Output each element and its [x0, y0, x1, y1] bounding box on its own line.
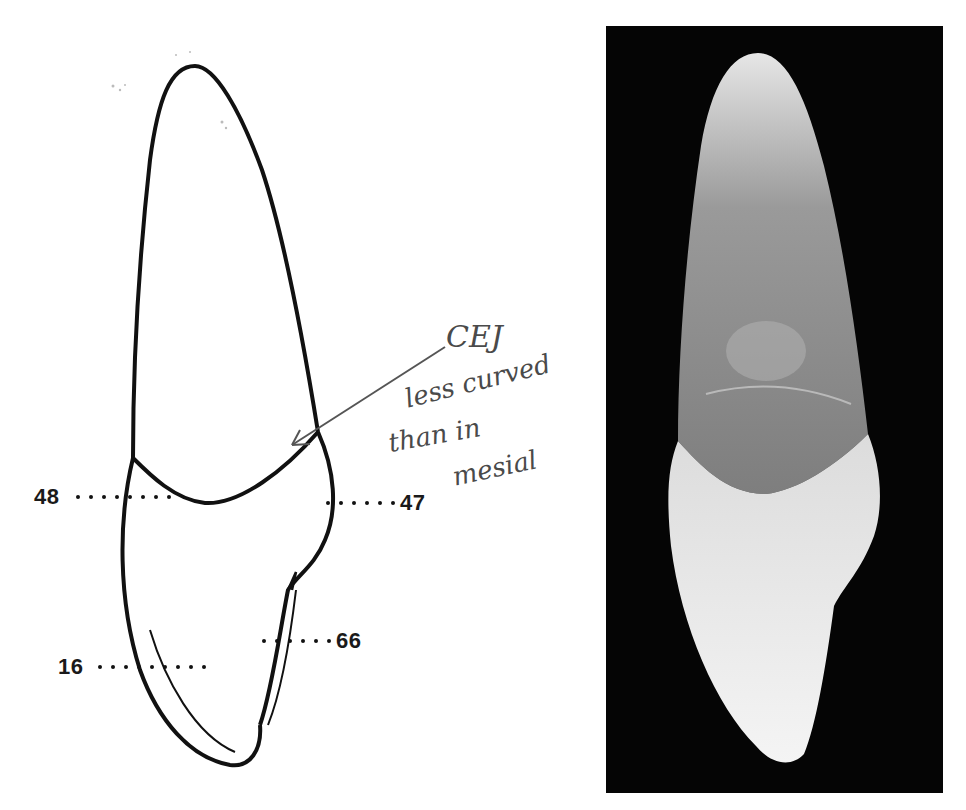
label-66: 66: [336, 628, 361, 654]
crown-outline: [133, 66, 318, 458]
photo-crown: [678, 53, 868, 494]
label-16: 16: [58, 654, 83, 680]
inner-contour-right: [268, 590, 296, 725]
cej-line: [133, 432, 318, 503]
annotation-cej: CEJ: [446, 322, 503, 352]
label-48: 48: [34, 484, 59, 510]
tooth-outline-svg: [0, 0, 600, 810]
tooth-photo-render: [606, 26, 943, 793]
notch: [288, 572, 296, 590]
label-47: 47: [400, 490, 425, 516]
tooth-line-drawing: 48 47 66 16 CEJ less curved than in mesi…: [0, 0, 600, 810]
print-speckles: [112, 51, 228, 129]
root-left-outline: [123, 458, 261, 765]
inner-contour-left: [150, 630, 235, 752]
tooth-photograph: [606, 26, 943, 793]
